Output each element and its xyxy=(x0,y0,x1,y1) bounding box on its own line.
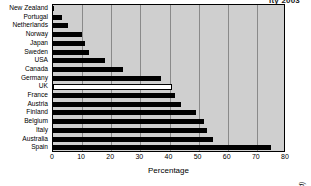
source-note: Source: Adapted from The Reality of Aid … xyxy=(286,2,306,184)
y-axis-label-germany: Germany xyxy=(21,74,48,83)
y-axis-label-new-zealand: New Zealand xyxy=(9,4,48,13)
y-axis-label-australia: Australia xyxy=(22,135,48,144)
bar-japan xyxy=(53,41,85,46)
bar-row xyxy=(53,57,284,66)
x-tick-60: 60 xyxy=(223,153,231,160)
bar-chart-figure: ity 2003 New ZealandPortugalNetherlandsN… xyxy=(0,0,311,186)
bar-new-zealand xyxy=(53,6,54,11)
bar-row xyxy=(53,66,284,75)
x-tick-70: 70 xyxy=(252,153,260,160)
y-axis-label-portugal: Portugal xyxy=(23,13,48,22)
bar-row xyxy=(53,83,284,92)
y-axis-label-austria: Austria xyxy=(27,100,48,109)
bar-netherlands xyxy=(53,23,68,28)
plot-area xyxy=(52,4,285,152)
bar-uk xyxy=(53,84,172,90)
y-axis-label-sweden: Sweden xyxy=(24,48,48,57)
bar-row xyxy=(53,144,284,153)
y-axis-label-canada: Canada xyxy=(25,65,48,74)
x-tick-0: 0 xyxy=(50,153,54,160)
bar-france xyxy=(53,93,175,98)
bar-row xyxy=(53,127,284,136)
bar-canada xyxy=(53,67,123,72)
y-axis-label-france: France xyxy=(27,91,48,100)
bar-row xyxy=(53,118,284,127)
y-axis-label-usa: USA xyxy=(34,56,48,65)
bar-italy xyxy=(53,128,207,133)
bar-row xyxy=(53,14,284,23)
bar-belgium xyxy=(53,119,204,124)
y-axis-label-uk: UK xyxy=(39,82,48,91)
bar-spain xyxy=(53,145,271,150)
bar-row xyxy=(53,5,284,14)
bar-row xyxy=(53,49,284,58)
y-axis-label-italy: Italy xyxy=(36,126,48,135)
bar-row xyxy=(53,31,284,40)
bar-austria xyxy=(53,102,181,107)
bar-row xyxy=(53,109,284,118)
x-tick-50: 50 xyxy=(194,153,202,160)
bar-series xyxy=(53,5,284,151)
x-axis-title: Percentage xyxy=(52,166,285,175)
bar-australia xyxy=(53,137,213,142)
y-axis-label-japan: Japan xyxy=(30,39,48,48)
x-tick-10: 10 xyxy=(77,153,85,160)
bar-finland xyxy=(53,110,196,115)
y-axis-label-spain: Spain xyxy=(31,143,48,152)
source-note-text: Source: Adapted from The Reality of Aid … xyxy=(298,182,305,186)
x-tick-20: 20 xyxy=(106,153,114,160)
bar-usa xyxy=(53,58,105,63)
y-axis-label-belgium: Belgium xyxy=(24,117,48,126)
bar-row xyxy=(53,75,284,84)
bar-sweden xyxy=(53,50,89,55)
y-axis-category-labels: New ZealandPortugalNetherlandsNorwayJapa… xyxy=(0,4,50,152)
x-tick-40: 40 xyxy=(165,153,173,160)
bar-row xyxy=(53,22,284,31)
bar-germany xyxy=(53,76,161,81)
x-axis-tick-labels: 01020304050607080 xyxy=(52,153,285,163)
bar-row xyxy=(53,136,284,145)
bar-row xyxy=(53,92,284,101)
bar-row xyxy=(53,40,284,49)
bar-row xyxy=(53,101,284,110)
bar-norway xyxy=(53,32,82,37)
y-axis-label-netherlands: Netherlands xyxy=(12,21,48,30)
bar-portugal xyxy=(53,15,62,20)
x-tick-30: 30 xyxy=(135,153,143,160)
y-axis-label-finland: Finland xyxy=(26,108,48,117)
y-axis-label-norway: Norway xyxy=(26,30,48,39)
